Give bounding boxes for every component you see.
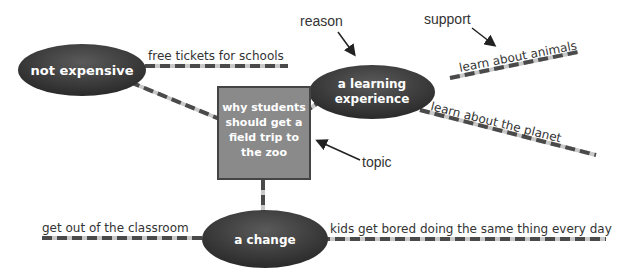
support-text: get out of the classroom xyxy=(42,221,189,235)
callout-reason: reason xyxy=(300,13,343,29)
topic-line: the zoo xyxy=(241,146,287,159)
support-text: kids get bored doing the same thing ever… xyxy=(330,222,612,236)
reason-label: not expensive xyxy=(31,63,134,78)
reason-label: a learning xyxy=(338,77,406,91)
topic-line: why students xyxy=(222,101,306,114)
arrow-icon xyxy=(472,28,494,45)
callout-topic: topic xyxy=(362,154,392,170)
callout-support: support xyxy=(424,11,471,27)
reason-node-change: a change xyxy=(202,210,328,268)
connector-not-expensive-to-topic xyxy=(130,82,222,120)
support-text: free tickets for schools xyxy=(148,49,284,63)
reason-node-not-expensive: not expensive xyxy=(18,44,146,96)
topic-line: should get a xyxy=(225,116,302,129)
topic-line: field trip to xyxy=(229,131,300,144)
topic-box: why students should get a field trip to … xyxy=(218,87,310,179)
arrow-icon xyxy=(318,141,360,160)
arrow-icon xyxy=(338,32,354,54)
web-diagram: not expensive a learning experience a ch… xyxy=(0,0,619,277)
reason-label: a change xyxy=(234,233,295,247)
support-text: learn about the planet xyxy=(429,99,563,145)
reason-label: experience xyxy=(335,92,410,106)
reason-node-learning: a learning experience xyxy=(309,65,435,119)
